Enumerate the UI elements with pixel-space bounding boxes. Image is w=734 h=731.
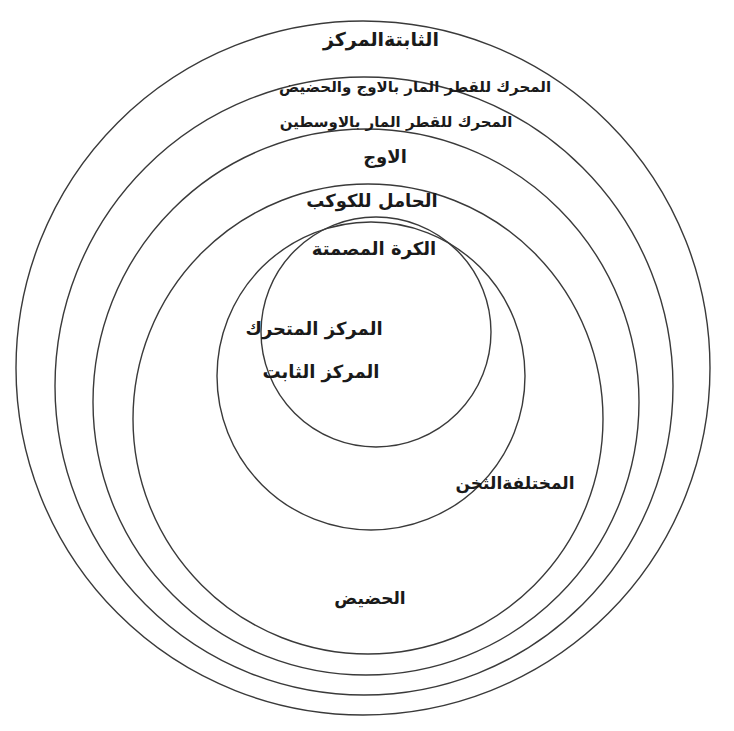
label-perigee: الحضيض — [334, 590, 405, 607]
label-fixed-center-sphere: الثابتةالمركز — [323, 30, 439, 49]
label-moving-center: المركز المتحرك — [245, 320, 382, 338]
label-varying-thickness: المختلفةالثخن — [456, 475, 575, 492]
label-fixed-center: المركز الثابت — [263, 363, 380, 381]
label-mover-mean-distances: المحرك للقطر المار بالاوسطين — [280, 115, 513, 130]
label-apogee: الاوج — [363, 148, 407, 166]
label-deferent: الحامل للكوكب — [306, 192, 438, 210]
label-mover-apogee-perigee: المحرك للقطر المار بالاوج والحضيض — [279, 80, 551, 95]
label-solid-sphere: الكرة المصمتة — [312, 240, 437, 258]
